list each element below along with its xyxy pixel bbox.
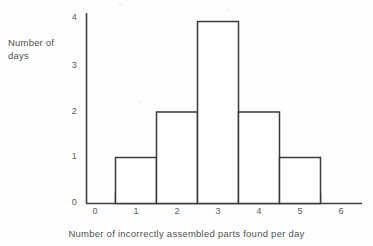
x-tick-label-1: 1 [128,206,144,216]
histogram-figure: Number of days 4 3 2 1 0 0 1 2 3 4 5 6 N… [0,0,373,246]
x-axis-title: Number of incorrectly assembled parts fo… [0,228,373,239]
bar-category-1 [116,158,157,204]
bar-category-3 [198,22,239,204]
x-tick-label-2: 2 [169,206,185,216]
bar-category-2 [157,112,198,204]
x-tick-label-3: 3 [210,206,226,216]
x-tick-label-0: 0 [87,206,103,216]
x-tick-label-4: 4 [251,206,267,216]
bar-category-5 [280,158,321,204]
x-tick-label-6: 6 [333,206,349,216]
histogram-bars [116,22,321,204]
x-tick-label-5: 5 [292,206,308,216]
bar-category-4 [239,112,280,204]
plot-area [0,0,373,246]
